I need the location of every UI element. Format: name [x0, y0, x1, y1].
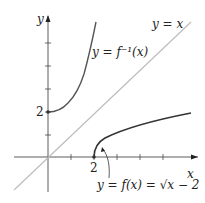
x-tick-label-2: 2 — [90, 162, 98, 174]
x-arrow-icon — [191, 155, 198, 160]
function-curve — [94, 113, 191, 157]
y-tick-label-2: 2 — [36, 106, 44, 118]
pointer-arrow — [103, 149, 109, 178]
inverse-curve — [48, 22, 96, 112]
function-label: y = f(x) = √x − 2 — [97, 179, 199, 191]
inverse-start-point — [46, 110, 50, 114]
inverse-label: y = f⁻¹(x) — [92, 46, 148, 58]
identity-label: y = x — [152, 18, 183, 30]
inverse-function-graph: y x 2 2 y = x y = f⁻¹(x) y = f(x) = √x −… — [0, 0, 205, 203]
function-start-point — [92, 155, 96, 159]
y-axis-label: y — [37, 13, 44, 25]
y-arrow-icon — [46, 15, 51, 22]
